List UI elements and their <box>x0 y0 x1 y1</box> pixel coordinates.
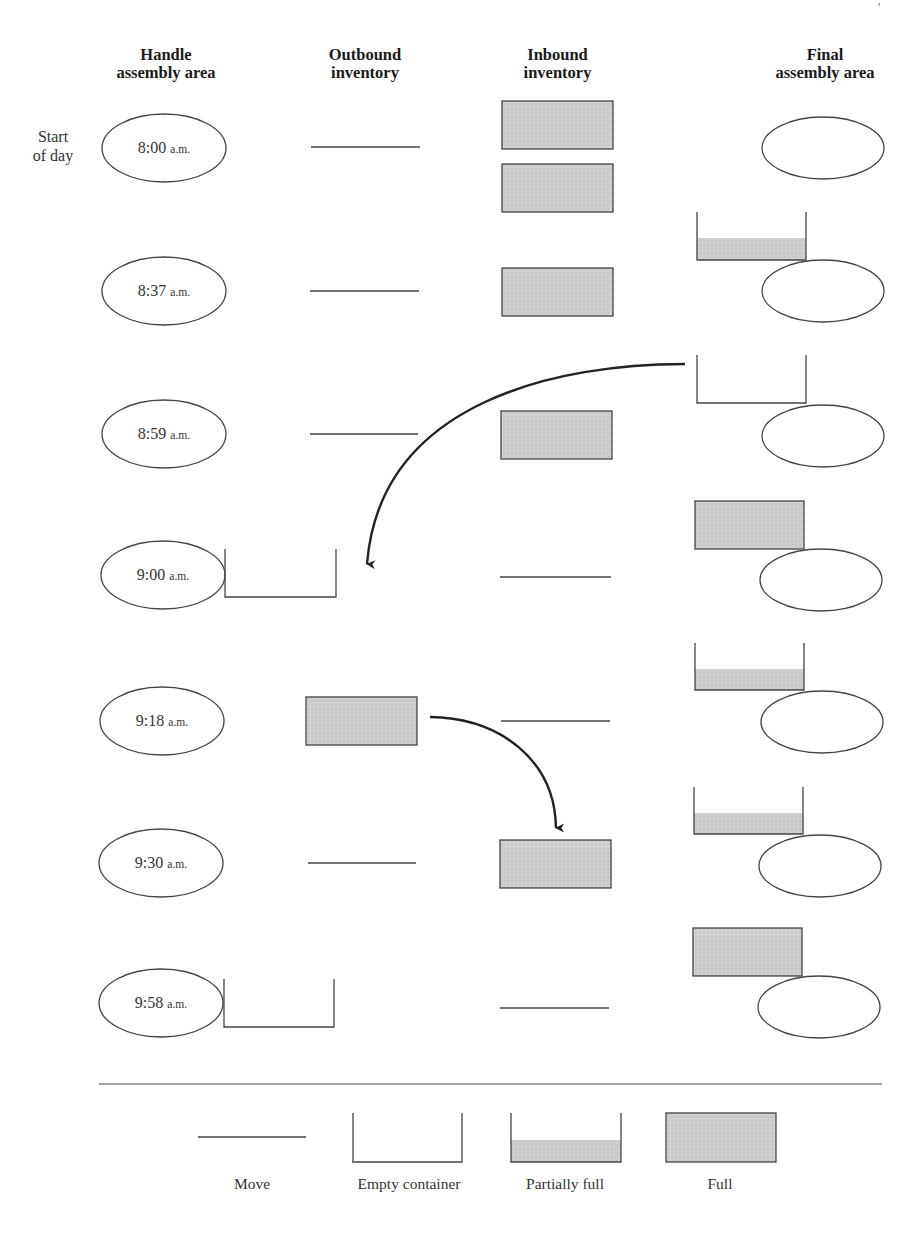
header-inbound-inventory: Inbound inventory <box>505 46 610 82</box>
row-9-00 <box>101 501 882 611</box>
header-final-assembly: Final assembly area <box>760 46 890 82</box>
time-value: 9:30 <box>135 854 163 871</box>
header-line: Outbound <box>305 46 425 64</box>
header-line: assembly area <box>104 64 228 82</box>
final-empty-container <box>697 355 806 403</box>
final-partially-full-container <box>695 643 804 690</box>
time-value: 8:37 <box>138 282 166 299</box>
time-value: 9:58 <box>135 994 163 1011</box>
arrow-outbound-to-inbound-icon <box>430 717 556 828</box>
final-assembly-station <box>758 976 880 1038</box>
header-handle-assembly: Handle assembly area <box>104 46 228 82</box>
time-value: 8:00 <box>138 139 166 156</box>
final-assembly-station <box>762 405 884 467</box>
inbound-full-container <box>502 164 613 212</box>
row-9-58 <box>99 928 880 1038</box>
header-line: inventory <box>305 64 425 82</box>
final-assembly-station <box>759 835 881 897</box>
inbound-full-container <box>502 101 613 149</box>
inbound-full-container <box>501 411 612 459</box>
ampm: a.m. <box>170 286 190 298</box>
ampm: a.m. <box>170 429 190 441</box>
outbound-full-container <box>306 697 417 745</box>
time-value: 9:18 <box>136 712 164 729</box>
legend-label-empty-container: Empty container <box>334 1175 484 1193</box>
final-partially-full-container <box>694 787 803 834</box>
outbound-empty-container <box>224 979 334 1027</box>
header-line: inventory <box>505 64 610 82</box>
ampm: a.m. <box>167 998 187 1010</box>
final-assembly-station <box>762 117 884 179</box>
final-full-container <box>695 501 804 549</box>
final-assembly-station <box>761 691 883 753</box>
row-9-30 <box>99 787 881 897</box>
ampm: a.m. <box>168 716 188 728</box>
inbound-full-container <box>500 840 611 888</box>
final-assembly-station <box>760 549 882 611</box>
row-9-18 <box>100 643 883 755</box>
time-label: 9:00 a.m. <box>100 565 226 586</box>
time-label: 8:59 a.m. <box>101 424 227 445</box>
final-full-container <box>693 928 802 976</box>
kanban-diagram <box>0 0 919 1235</box>
start-label-line: of day <box>22 146 84 165</box>
legend-full-symbol <box>666 1113 776 1162</box>
inbound-full-container <box>502 268 613 316</box>
header-outbound-inventory: Outbound inventory <box>305 46 425 82</box>
time-value: 8:59 <box>138 425 166 442</box>
legend-label-partially-full: Partially full <box>500 1175 630 1193</box>
legend-label-move: Move <box>202 1175 302 1193</box>
time-label: 8:00 a.m. <box>101 138 227 159</box>
header-line: Inbound <box>505 46 610 64</box>
legend-partially-full-symbol <box>511 1113 621 1162</box>
arrow-final-to-handle-icon <box>367 364 685 564</box>
outbound-empty-container <box>225 549 336 597</box>
header-line: Final <box>760 46 890 64</box>
row-8-59 <box>102 355 884 468</box>
legend-label-full: Full <box>670 1175 770 1193</box>
legend-empty-container-symbol <box>352 1113 462 1162</box>
header-line: assembly area <box>760 64 890 82</box>
final-partially-full-container <box>697 212 806 260</box>
time-label: 8:37 a.m. <box>101 281 227 302</box>
ampm: a.m. <box>170 143 190 155</box>
ampm: a.m. <box>169 570 189 582</box>
time-value: 9:00 <box>137 566 165 583</box>
start-label-line: Start <box>22 127 84 146</box>
start-of-day-label: Start of day <box>22 127 84 165</box>
time-label: 9:18 a.m. <box>99 711 225 732</box>
page-marker: ' <box>878 0 880 15</box>
final-assembly-station <box>762 260 884 322</box>
time-label: 9:58 a.m. <box>98 993 224 1014</box>
ampm: a.m. <box>167 858 187 870</box>
time-label: 9:30 a.m. <box>98 853 224 874</box>
header-line: Handle <box>104 46 228 64</box>
row-8-37 <box>102 212 884 325</box>
